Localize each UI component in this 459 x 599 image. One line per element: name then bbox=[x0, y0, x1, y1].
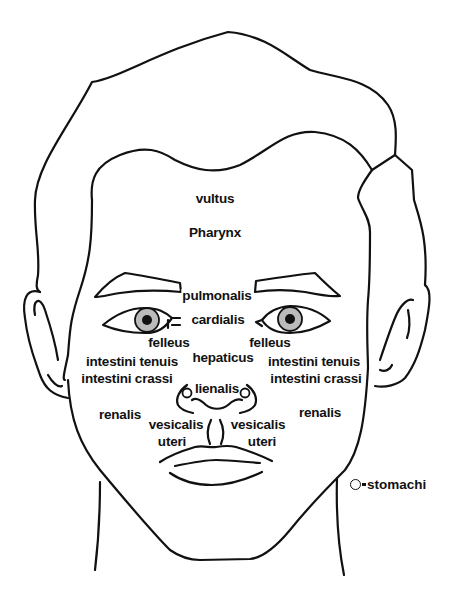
face-left-side bbox=[64, 200, 92, 380]
mouth-line bbox=[175, 460, 260, 466]
circle-icon bbox=[350, 479, 361, 490]
right-eyebrow bbox=[255, 273, 340, 296]
label-uteri-right: uteri bbox=[248, 435, 276, 449]
label-felleus-left: felleus bbox=[148, 336, 189, 350]
right-eye-corner bbox=[256, 320, 262, 326]
left-ear-inner-2 bbox=[48, 375, 62, 386]
lower-lip bbox=[170, 472, 262, 485]
legend: stomachi bbox=[350, 477, 426, 492]
nostril-right-stomachi-marker bbox=[241, 389, 250, 398]
right-pupil bbox=[285, 314, 295, 324]
hairline bbox=[92, 132, 372, 200]
label-lienalis: lienalis bbox=[195, 382, 239, 396]
face-diagram: vultus Pharynx pulmonalis cardialis fell… bbox=[0, 0, 459, 599]
neck-right bbox=[337, 478, 344, 575]
face-right-side bbox=[358, 170, 372, 368]
left-ear bbox=[24, 291, 68, 398]
philtrum-right bbox=[220, 420, 223, 444]
label-hepaticus: hepaticus bbox=[192, 351, 253, 365]
head-left-outer bbox=[35, 200, 40, 292]
label-vultus: vultus bbox=[196, 192, 235, 206]
left-pupil bbox=[142, 315, 152, 325]
nostril-left-stomachi-marker bbox=[183, 389, 192, 398]
nose-base bbox=[192, 399, 242, 409]
legend-label-stomachi: stomachi bbox=[367, 477, 426, 492]
label-pharynx: Pharynx bbox=[189, 226, 241, 240]
label-intestini-tenuis-left: intestini tenuis bbox=[86, 355, 178, 369]
left-ear-inner bbox=[34, 301, 58, 360]
hair-outline bbox=[35, 32, 396, 200]
label-vesicalis-right: vesicalis bbox=[231, 418, 286, 432]
philtrum-left bbox=[208, 420, 211, 444]
right-ear-inner-2 bbox=[407, 310, 409, 338]
label-pulmonalis: pulmonalis bbox=[181, 289, 252, 303]
left-eyebrow bbox=[95, 273, 181, 297]
label-renalis-right: renalis bbox=[299, 406, 341, 420]
neck-left bbox=[95, 482, 100, 570]
label-intestini-crassi-right: intestini crassi bbox=[270, 372, 361, 386]
label-uteri-left: uteri bbox=[158, 435, 186, 449]
label-intestini-crassi-left: intestini crassi bbox=[81, 372, 172, 386]
jaw-line bbox=[68, 368, 368, 560]
label-vesicalis-left: vesicalis bbox=[149, 418, 204, 432]
label-felleus-right: felleus bbox=[249, 336, 290, 350]
label-cardialis: cardialis bbox=[192, 313, 245, 327]
label-renalis-left: renalis bbox=[99, 408, 141, 422]
legend-equals-separator bbox=[362, 483, 366, 486]
hair-right-junction bbox=[372, 155, 426, 285]
right-ear-inner-3 bbox=[380, 365, 392, 371]
label-intestini-tenuis-right: intestini tenuis bbox=[268, 355, 360, 369]
